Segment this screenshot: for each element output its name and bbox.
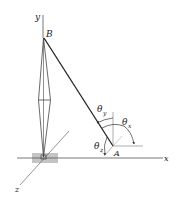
point-a-label: A	[113, 149, 120, 158]
svg-text:y: y	[102, 109, 107, 117]
svg-text:x: x	[128, 122, 132, 129]
point-b-label: B	[45, 29, 53, 39]
theta-y-label: θ y	[97, 104, 107, 117]
theta-y-arc	[97, 118, 113, 123]
y-axis-label: y	[34, 12, 41, 22]
cable-ba	[44, 38, 113, 146]
pole	[39, 38, 51, 157]
theta-x-label: θ x	[122, 117, 132, 129]
cable-pole-diagram: y B x z A θ y θ x θ z	[0, 0, 178, 202]
svg-text:z: z	[99, 146, 104, 153]
x-axis-label: x	[164, 154, 169, 163]
theta-z-label: θ z	[94, 141, 104, 153]
theta-z-arc	[104, 137, 107, 155]
z-reference	[104, 146, 113, 156]
z-reference-extension	[113, 136, 122, 146]
z-axis-label: z	[14, 185, 20, 194]
